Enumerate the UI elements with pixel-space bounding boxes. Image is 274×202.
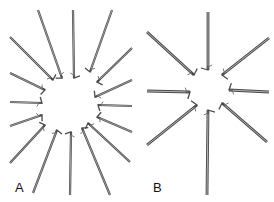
instrument-shaft-highlight	[95, 80, 132, 97]
instrument-shaft-highlight	[10, 115, 42, 126]
instrument	[201, 12, 212, 70]
instrument	[85, 10, 112, 72]
instrument	[70, 10, 80, 78]
panel-a-label: A	[15, 181, 24, 194]
instrument-shaft-highlight	[10, 125, 45, 163]
instrument	[10, 97, 42, 107]
instrument	[10, 73, 45, 95]
instrument-jaw	[91, 68, 95, 69]
instrument	[222, 38, 269, 79]
instrument-shaft-highlight	[147, 32, 194, 75]
instrument-shaft-highlight	[90, 10, 112, 72]
instrument-shaft-highlight	[97, 48, 132, 82]
instrument-jaw	[52, 133, 56, 134]
panel-b-instruments	[147, 12, 269, 195]
instrument-jaw	[90, 124, 94, 125]
panel-a-instruments	[10, 10, 132, 195]
instrument	[147, 88, 190, 99]
instrument	[65, 132, 75, 195]
instrument	[97, 112, 132, 132]
instrument	[10, 113, 42, 126]
instrument-shaft-highlight	[147, 105, 197, 145]
instrument-shaft-highlight	[222, 103, 267, 142]
instrument	[94, 80, 132, 98]
instrument	[219, 103, 267, 142]
figure-canvas	[0, 0, 274, 202]
instrument-shaft-highlight	[10, 37, 53, 80]
instrument	[97, 48, 132, 85]
instrument	[147, 101, 197, 145]
instrument	[33, 130, 62, 193]
instrument	[81, 128, 110, 195]
instrument	[98, 102, 132, 112]
instrument-shaft-highlight	[222, 38, 269, 75]
instrument-shaft-highlight	[97, 117, 132, 132]
instrument	[204, 110, 215, 195]
panel-b-label: B	[153, 181, 162, 194]
instrument-jaw	[43, 127, 44, 131]
instrument	[10, 122, 45, 163]
instrument	[229, 83, 269, 94]
instrument-shaft-highlight	[10, 73, 45, 90]
instrument	[147, 32, 197, 75]
instrument-shaft-highlight	[33, 130, 57, 193]
